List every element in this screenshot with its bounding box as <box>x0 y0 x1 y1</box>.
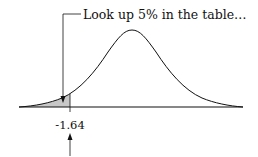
diagram-svg: Look up 5% in the table… -1.64 <box>0 0 258 157</box>
callout-text: Look up 5% in the table… <box>83 7 247 22</box>
critical-value-label: -1.64 <box>55 118 85 132</box>
normal-distribution-diagram: Look up 5% in the table… -1.64 <box>0 0 258 157</box>
bell-curve <box>19 30 243 107</box>
pointer-arrowhead <box>68 133 73 140</box>
